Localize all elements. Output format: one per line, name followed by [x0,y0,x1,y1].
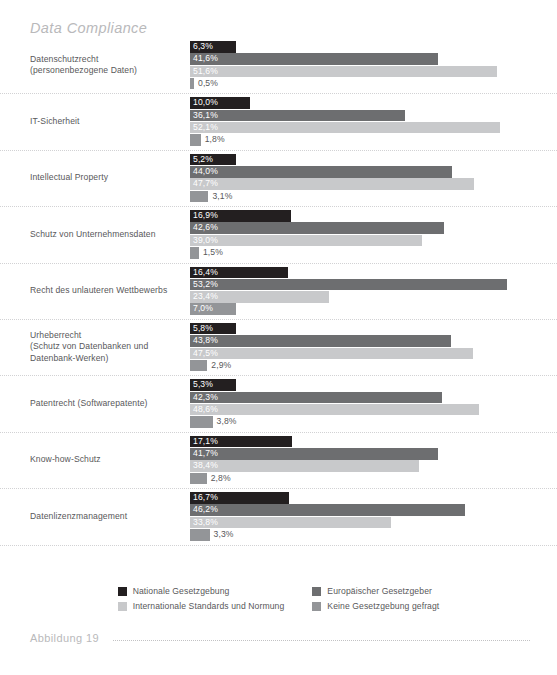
category-label-line: (personenbezogene Daten) [30,65,190,76]
category-bar-group: 16,9%42,6%39,0%1,5% [190,210,557,258]
category-label-line: Datenlizenzmanagement [30,511,190,522]
bar-value-label: 3,3% [210,529,234,541]
legend-label: Internationale Standards und Normung [133,601,285,611]
bar-line: 23,4% [190,291,545,303]
page-title: Data Compliance [30,20,147,36]
bar-value-label: 36,1% [190,110,218,122]
bar-segment: 7,0% [190,303,236,315]
bar-segment: 43,8% [190,335,451,347]
bar-segment: 5,2% [190,154,236,166]
bar-line: 2,8% [190,473,545,485]
bar-line: 38,4% [190,460,545,472]
bar-line: 16,7% [190,492,545,504]
bar-segment [190,473,207,485]
category-label: Know-how-Schutz [0,454,190,465]
category-label: Datenlizenzmanagement [0,511,190,522]
bar-segment [190,134,201,146]
bar-segment: 48,6% [190,404,479,416]
bar-line: 43,8% [190,335,545,347]
bar-line: 47,5% [190,348,545,360]
bar-segment: 53,2% [190,279,507,291]
category-label: IT-Sicherheit [0,116,190,127]
bar-value-label: 6,3% [190,41,213,53]
bar-line: 53,2% [190,279,545,291]
bar-value-label: 52,1% [190,122,218,134]
bar-value-label: 41,7% [190,448,218,460]
bar-line: 5,2% [190,154,545,166]
bar-value-label: 5,3% [190,379,213,391]
bar-line: 42,3% [190,392,545,404]
legend-item[interactable]: Europäischer Gesetzgeber [312,586,439,596]
chart-category-row: Schutz von Unternehmensdaten16,9%42,6%39… [0,207,557,263]
bar-line: 2,9% [190,360,545,372]
legend-item[interactable]: Nationale Gesetzgebung [118,586,285,596]
bar-line: 46,2% [190,504,545,516]
bar-line: 41,7% [190,448,545,460]
category-bar-group: 10,0%36,1%52,1%1,8% [190,97,557,145]
bar-value-label: 41,6% [190,53,218,65]
category-label-line: Datenbank-Werken) [30,353,190,364]
chart-category-row: Patentrecht (Softwarepatente)5,3%42,3%48… [0,376,557,432]
bar-segment: 51,6% [190,66,497,78]
category-label-line: Intellectual Property [30,172,190,183]
bar-value-label: 1,5% [199,247,223,259]
bar-segment: 16,4% [190,267,288,279]
bar-line: 3,3% [190,529,545,541]
bar-segment: 16,9% [190,210,291,222]
figure-caption: Abbildung 19 [30,632,99,644]
chart-category-row: IT-Sicherheit10,0%36,1%52,1%1,8% [0,94,557,150]
chart-category-row: Know-how-Schutz17,1%41,7%38,4%2,8% [0,433,557,489]
bar-value-label: 0,5% [194,78,218,90]
category-label: Intellectual Property [0,172,190,183]
chart-category-row: Datenlizenzmanagement16,7%46,2%33,8%3,3% [0,489,557,545]
chart-category-row: Recht des unlauteren Wettbewerbs16,4%53,… [0,264,557,320]
bar-value-label: 5,8% [190,323,213,335]
category-label: Patentrecht (Softwarepatente) [0,398,190,409]
category-label: Schutz von Unternehmensdaten [0,229,190,240]
bar-value-label: 33,8% [190,517,218,529]
bar-segment [190,247,199,259]
bar-segment: 42,6% [190,222,444,234]
bar-line: 36,1% [190,110,545,122]
bar-segment: 17,1% [190,436,292,448]
bar-segment: 23,4% [190,291,329,303]
category-bar-group: 5,3%42,3%48,6%3,8% [190,379,557,427]
bar-value-label: 2,9% [207,360,231,372]
bar-line: 6,3% [190,41,545,53]
bar-segment: 6,3% [190,41,236,53]
bar-segment [190,416,213,428]
bar-segment: 46,2% [190,504,465,516]
category-bar-group: 16,7%46,2%33,8%3,3% [190,492,557,540]
bar-line: 51,6% [190,66,545,78]
bar-segment [190,529,210,541]
category-label-line: IT-Sicherheit [30,116,190,127]
category-label-line: Recht des unlauteren Wettbewerbs [30,285,190,296]
bar-value-label: 47,5% [190,348,218,360]
bar-segment: 10,0% [190,97,250,109]
bar-value-label: 16,7% [190,492,218,504]
legend-grid: Nationale GesetzgebungEuropäischer Geset… [118,586,440,611]
bar-value-label: 39,0% [190,235,218,247]
bar-value-label: 53,2% [190,279,218,291]
category-label: Recht des unlauteren Wettbewerbs [0,285,190,296]
footer-dotted-rule [113,639,530,641]
legend-item[interactable]: Keine Gesetzgebung gefragt [312,601,439,611]
bar-segment: 41,7% [190,448,438,460]
legend-swatch-icon [118,587,127,596]
bar-value-label: 5,2% [190,154,213,166]
bar-line: 3,8% [190,416,545,428]
bar-line: 52,1% [190,122,545,134]
legend-item[interactable]: Internationale Standards und Normung [118,601,285,611]
bar-segment: 44,0% [190,166,452,178]
bar-line: 3,1% [190,191,545,203]
legend-swatch-icon [312,587,321,596]
bar-line: 16,4% [190,267,545,279]
bar-value-label: 47,7% [190,178,218,190]
category-bar-group: 16,4%53,2%23,4%7,0% [190,267,557,315]
bar-value-label: 46,2% [190,504,218,516]
category-label: Datenschutzrecht(personenbezogene Daten) [0,54,190,77]
bar-line: 42,6% [190,222,545,234]
bar-value-label: 16,4% [190,267,218,279]
category-label-line: Datenschutzrecht [30,54,190,65]
bar-line: 7,0% [190,303,545,315]
